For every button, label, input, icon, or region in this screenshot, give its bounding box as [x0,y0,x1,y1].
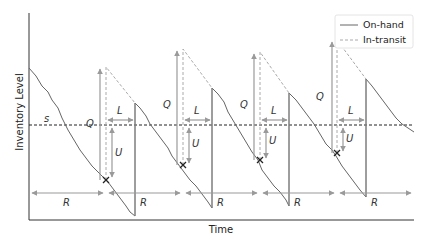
r-label-3: R [217,197,224,208]
u-label-3: U [269,135,277,146]
undershoot-arrows [112,128,343,177]
l-label-4: L [348,105,354,116]
x-axis-label: Time [208,224,233,235]
l-label-1: L [117,105,123,116]
r-label-1: R [63,197,70,208]
q-label-1: Q [86,118,94,129]
r-label-5: R [371,197,378,208]
q-label-2: Q [163,99,171,110]
r-label-2: R [140,197,147,208]
reorder-point-label: s [44,113,49,124]
q-label-3: Q [240,99,248,110]
order-markers [103,150,340,183]
in-transit-lines [106,40,366,180]
l-label-2: L [194,105,200,116]
y-axis-label: Inventory Level [14,73,25,150]
legend: On-hand In-transit [335,15,413,48]
l-label-3: L [271,105,277,116]
u-label-4: U [346,133,354,144]
u-label-1: U [115,147,123,158]
inventory-diagram: s Q Q Q Q L L L L U U [0,0,429,243]
legend-on-hand: On-hand [363,19,404,30]
legend-in-transit: In-transit [363,34,406,45]
u-label-2: U [192,138,200,149]
on-hand-line [29,68,414,216]
q-label-4: Q [316,91,324,102]
r-label-4: R [294,197,301,208]
